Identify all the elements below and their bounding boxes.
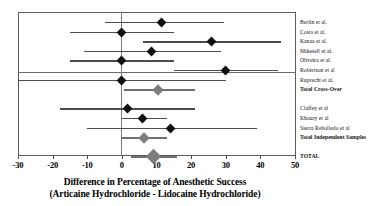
study-label: Berlin et al. [300,19,327,25]
study-label: TOTAL [300,153,319,159]
study-label: Total Cross-Over [300,86,342,92]
study-label: Kanaa et al. [300,38,327,44]
study-label: Robertson et al [300,67,335,73]
effect-point-marker [117,56,127,66]
study-label: Sierra Rebolledo et al [300,125,350,131]
summary-diamond-marker [145,149,161,165]
caption-line-1: Difference in Percentage of Anesthetic S… [0,176,310,188]
effect-point-marker [117,75,127,85]
x-axis-caption: Difference in Percentage of Anesthetic S… [0,176,310,200]
effect-point-marker [146,46,156,56]
study-label: Claffey et al [300,105,328,111]
summary-diamond-marker [139,132,150,143]
effect-point-marker [221,66,231,76]
effect-point-marker [138,114,148,124]
study-label: Khoury et al [300,115,329,121]
forest-plot: -30-20-1001020304050 Berlin et al.Costa … [0,0,372,206]
plot-frame-top [18,12,296,13]
study-label: Ruprecht et al. [300,77,334,83]
study-label: Total Independent Samples [300,134,366,140]
study-label: Oliveira et al. [300,57,331,63]
effect-point-marker [157,18,167,28]
effect-point-marker [117,27,127,37]
effect-point-marker [165,123,175,133]
effect-point-marker [207,37,217,47]
caption-line-2: (Articaine Hydrochloride - Lidocaine Hyd… [0,188,310,200]
study-label: Costa et al. [300,29,326,35]
summary-diamond-marker [153,84,164,95]
effect-point-marker [122,104,132,114]
study-label: Mikesell et al. [300,48,333,54]
